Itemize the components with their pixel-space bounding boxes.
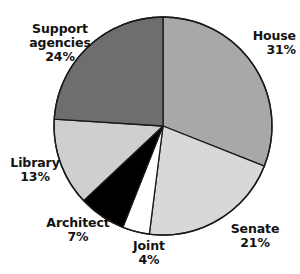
pie-label-support-agencies: Support agencies 24% bbox=[14, 22, 106, 64]
pie-label-support-agencies-name-line2: agencies bbox=[14, 36, 106, 50]
pie-label-joint: Joint 4% bbox=[118, 239, 180, 267]
pie-label-architect-name: Architect bbox=[36, 216, 120, 230]
pie-label-senate: Senate 21% bbox=[218, 222, 292, 250]
pie-label-architect-value: 7% bbox=[36, 230, 120, 244]
pie-label-joint-name: Joint bbox=[118, 239, 180, 253]
pie-label-house: House 31% bbox=[226, 29, 296, 57]
pie-label-house-value: 31% bbox=[226, 43, 296, 57]
pie-label-senate-name: Senate bbox=[218, 222, 292, 236]
pie-label-joint-value: 4% bbox=[118, 253, 180, 267]
pie-label-senate-value: 21% bbox=[218, 236, 292, 250]
pie-label-support-agencies-name-line1: Support bbox=[14, 22, 106, 36]
pie-chart: House 31% Senate 21% Joint 4% Architect … bbox=[0, 0, 300, 274]
pie-label-library-value: 13% bbox=[4, 170, 66, 184]
pie-label-library: Library 13% bbox=[4, 156, 66, 184]
pie-label-architect: Architect 7% bbox=[36, 216, 120, 244]
pie-label-support-agencies-value: 24% bbox=[14, 50, 106, 64]
pie-label-house-name: House bbox=[226, 29, 296, 43]
pie-label-library-name: Library bbox=[4, 156, 66, 170]
